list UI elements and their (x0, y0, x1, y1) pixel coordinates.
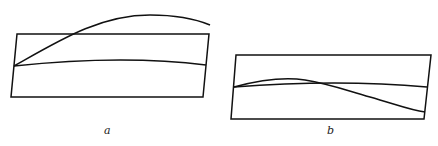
figure-a-label: a (104, 124, 111, 137)
figure-b (231, 55, 431, 119)
figure-a-upper-curve (14, 15, 210, 66)
figure-a-lower-curve (14, 60, 206, 66)
diagram-canvas (0, 0, 438, 146)
figure-b-label: b (327, 124, 334, 137)
figure-b-frame (231, 55, 431, 119)
figure-a (11, 15, 210, 97)
figure-a-frame (11, 34, 209, 97)
